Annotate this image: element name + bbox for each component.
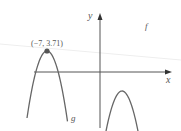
- series-g-label: g: [71, 113, 76, 123]
- series-g-curve: [27, 51, 68, 121]
- y-axis-arrow-icon: [98, 13, 103, 20]
- y-axis-label: y: [87, 10, 93, 21]
- chart: x y g f (−7, 3.71): [0, 0, 181, 131]
- x-axis-label: x: [165, 74, 171, 85]
- series-f-curve: [102, 91, 144, 131]
- faint-background-line: [0, 44, 181, 60]
- vertex-annotation: (−7, 3.71): [31, 39, 63, 48]
- vertex-marker: [44, 48, 49, 53]
- series-f-label: f: [145, 21, 149, 31]
